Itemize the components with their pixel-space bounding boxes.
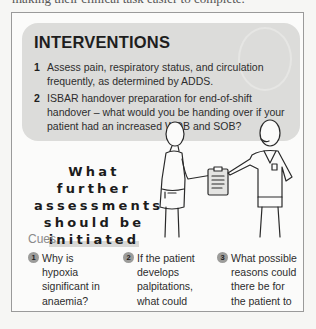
nurse-right-figure <box>228 120 292 237</box>
cue-text: If the patient develops palpitations, wh… <box>123 251 205 312</box>
interventions-heading: INTERVENTIONS <box>34 33 170 52</box>
nurse-left-figure <box>160 122 212 237</box>
cue-number-badge: 3 <box>217 252 228 263</box>
intervention-number: 2 <box>34 91 40 105</box>
intervention-number: 1 <box>34 60 40 74</box>
cutoff-preceding-text: making their clinical task easier to com… <box>12 0 245 7</box>
cue-item: 2 If the patient develops palpitations, … <box>123 251 205 312</box>
question-line: initiated <box>49 232 140 247</box>
question-line: should be <box>34 214 154 231</box>
intervention-text: Assess pain, respiratory status, and cir… <box>34 60 296 88</box>
cue-text: What possible reasons could there be for… <box>217 251 299 312</box>
question-line: assessments <box>34 197 154 214</box>
cues-label: Cues <box>28 232 56 246</box>
interventions-box: INTERVENTIONS 1 Assess pain, respiratory… <box>11 12 304 312</box>
clipboard <box>208 167 228 195</box>
question-line: What further <box>34 163 154 197</box>
cue-number-badge: 2 <box>123 252 134 263</box>
cue-item: 3 What possible reasons could there be f… <box>217 251 299 312</box>
cue-item: 1 Why is hypoxia significant in anaemia? <box>28 251 102 308</box>
intervention-item: 1 Assess pain, respiratory status, and c… <box>34 60 296 88</box>
cue-text: Why is hypoxia significant in anaemia? <box>28 251 102 308</box>
cue-number-badge: 1 <box>28 252 39 263</box>
handover-illustration <box>152 119 302 239</box>
